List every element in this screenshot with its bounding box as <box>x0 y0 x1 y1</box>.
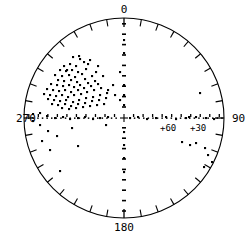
meridian-dash <box>122 169 126 171</box>
data-point <box>71 69 73 71</box>
data-point <box>71 127 73 129</box>
data-point <box>92 96 94 98</box>
data-point <box>63 80 65 82</box>
meridian-dash <box>122 179 126 181</box>
data-point <box>123 131 125 133</box>
data-point <box>119 71 121 73</box>
equator-dot <box>97 117 99 119</box>
data-point <box>79 84 81 86</box>
data-point <box>63 65 65 67</box>
latitude-tick <box>181 114 182 117</box>
equator-dot <box>111 117 113 119</box>
data-point <box>66 69 68 71</box>
data-point <box>68 108 70 110</box>
data-point <box>58 90 60 92</box>
data-point <box>107 116 109 118</box>
data-point <box>83 87 85 89</box>
equator-dot <box>221 117 223 119</box>
equator-dot <box>171 117 173 119</box>
data-point <box>146 118 148 120</box>
data-point <box>87 63 89 65</box>
latitude-tick <box>95 114 96 117</box>
equator-dot <box>203 117 205 119</box>
data-point <box>99 117 101 119</box>
data-point <box>59 170 61 172</box>
polar-scatter-chart: 0 90 180 270 +60 +30 <box>0 0 248 237</box>
meridian-dash <box>122 127 126 129</box>
equator-dot <box>207 117 209 119</box>
data-point <box>55 95 57 97</box>
equator-dot <box>42 117 44 119</box>
data-point <box>76 81 78 83</box>
latitude-tick <box>76 114 77 117</box>
data-point <box>77 117 79 119</box>
data-point <box>54 117 56 119</box>
data-point <box>181 141 183 143</box>
data-point <box>82 106 84 108</box>
data-point <box>53 99 55 101</box>
equator-dot <box>143 117 145 119</box>
data-point <box>61 75 63 77</box>
data-point <box>100 87 102 89</box>
data-point <box>84 116 86 118</box>
data-point <box>207 154 209 156</box>
data-point <box>203 166 205 168</box>
data-point <box>62 116 64 118</box>
data-point <box>70 91 72 93</box>
meridian-dash <box>122 210 126 212</box>
data-point <box>189 144 191 146</box>
data-point <box>77 103 79 105</box>
meridian-dash <box>122 54 126 56</box>
meridian-dash <box>122 33 126 35</box>
data-point <box>91 75 93 77</box>
latitude-tick <box>66 114 67 117</box>
data-point <box>46 115 48 117</box>
equator-dot <box>180 117 182 119</box>
data-point <box>69 63 71 65</box>
latitude-tick <box>200 114 201 117</box>
data-point <box>80 93 82 95</box>
data-point <box>137 116 139 118</box>
latitude-tick <box>133 114 134 117</box>
latitude-tick <box>190 114 191 117</box>
data-point <box>85 68 87 70</box>
azimuth-label-0: 0 <box>121 3 128 16</box>
data-point <box>50 83 52 85</box>
data-point <box>70 105 72 107</box>
data-point <box>102 75 104 77</box>
data-point <box>39 124 41 126</box>
data-point <box>105 97 107 99</box>
data-point <box>83 61 85 63</box>
data-point <box>75 65 77 67</box>
latitude-tick <box>161 114 162 117</box>
equator-dot <box>217 117 219 119</box>
data-point <box>165 116 167 118</box>
data-point <box>62 85 64 87</box>
data-point <box>123 171 125 173</box>
data-point <box>69 118 71 120</box>
data-point <box>52 89 54 91</box>
meridian-dash <box>122 200 126 202</box>
equator-dot <box>198 117 200 119</box>
polar-plot-canvas: 0 90 180 270 +60 +30 <box>0 0 248 237</box>
latitude-label-60: +60 <box>160 123 176 133</box>
equator-dot <box>51 117 53 119</box>
data-point <box>41 140 43 142</box>
equator-dot <box>60 117 62 119</box>
data-point <box>123 84 125 86</box>
equator-dot <box>46 117 48 119</box>
data-point <box>67 96 69 98</box>
latitude-label-30: +30 <box>190 123 206 133</box>
data-point <box>123 104 125 106</box>
data-point <box>106 92 108 94</box>
data-point <box>123 39 125 41</box>
data-point <box>114 94 116 96</box>
data-point <box>99 94 101 96</box>
data-point <box>112 84 114 86</box>
latitude-tick <box>114 114 115 117</box>
data-point <box>49 94 51 96</box>
meridian-dash <box>122 106 126 108</box>
data-point <box>61 94 63 96</box>
data-point <box>97 65 99 67</box>
equator-dot <box>88 117 90 119</box>
